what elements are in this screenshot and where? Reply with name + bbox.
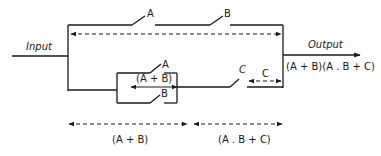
a-or-b-annotation: (A + B) [112, 134, 148, 145]
output-label: Output [308, 39, 344, 50]
c-span-label: C [262, 68, 269, 79]
switching-circuit-diagram: Input A B Output (A + B)(A . B + C) A B … [0, 0, 381, 156]
switch-c [230, 79, 239, 87]
switch-c-label: C [239, 64, 246, 75]
parallel-expression: (A + B) [136, 73, 172, 84]
bottom-branch [68, 64, 283, 103]
input-label: Input [26, 41, 53, 52]
switch-b-parallel-label: B [161, 88, 168, 99]
switch-a-top-label: A [147, 8, 154, 19]
output-expression: (A + B)(A . B + C) [286, 61, 375, 72]
top-branch [68, 16, 283, 25]
ab-or-c-annotation: (A . B + C) [218, 134, 271, 145]
switch-a-top [132, 16, 145, 25]
switch-a-parallel [150, 64, 161, 73]
switch-b-top-label: B [224, 8, 231, 19]
switch-b-top [210, 16, 223, 25]
switch-b-parallel [150, 95, 160, 103]
switch-a-parallel-label: A [162, 59, 169, 70]
